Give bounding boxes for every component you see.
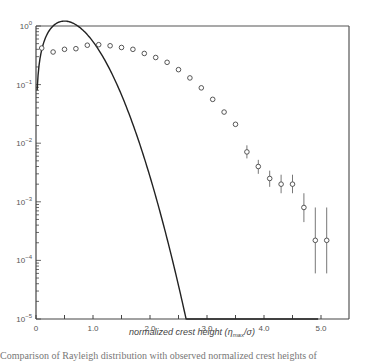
data-point [153,55,158,60]
data-point [199,86,204,91]
data-point [85,43,90,48]
data-point [267,176,272,181]
observed-data-points [39,42,329,242]
y-tick-label: 10−1 [16,79,32,90]
crest-height-distribution-chart: 01.02.03.04.05.0 10010−110−210−310−410−5… [0,0,367,361]
data-point [96,42,101,47]
data-point [74,46,79,51]
data-point [324,238,329,243]
data-point [108,43,113,48]
x-tick-label: 4.0 [258,324,270,333]
plot-frame [36,26,349,319]
figure-caption: Comparison of Rayleigh distribution with… [0,350,367,361]
y-tick-label: 10−4 [16,254,32,265]
data-point [210,97,215,102]
data-point [233,122,238,127]
x-axis-title-suffix: /σ) [243,327,255,337]
x-tick-label: 1.0 [87,324,99,333]
x-axis-title-prefix: normalized crest height ( [129,327,229,337]
rayleigh-curve [37,21,318,319]
data-point [142,51,147,56]
data-point [119,45,124,50]
data-point [39,46,44,51]
data-point [290,182,295,187]
data-point [51,50,56,55]
data-point [165,60,170,65]
data-point [131,47,136,52]
data-point [245,150,250,155]
data-point [222,110,227,115]
data-point [256,164,261,169]
data-point [188,76,193,81]
y-tick-label: 10−3 [16,196,32,207]
x-tick-label: 0 [34,324,39,333]
data-point [313,238,318,243]
y-axis-tick-labels: 10010−110−210−310−410−5 [16,20,32,324]
x-axis-title: normalized crest height (ηmax/σ) [129,327,255,338]
data-point [62,47,67,52]
data-point [302,205,307,210]
y-tick-label: 10−5 [16,313,32,324]
y-tick-label: 10−2 [16,137,32,148]
data-point [176,67,181,72]
y-tick-label: 100 [20,20,33,31]
data-point [279,182,284,187]
x-tick-label: 5.0 [315,324,327,333]
